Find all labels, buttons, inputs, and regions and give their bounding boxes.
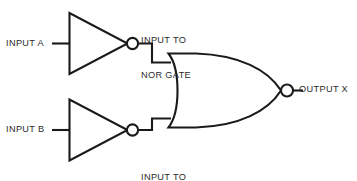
logic-circuit-diagram: INPUT A INPUT B INPUT TO NOR GATE INPUT … <box>0 0 357 181</box>
label-nor-input-top: INPUT TO NOR GATE <box>141 12 191 104</box>
inverter-top-triangle <box>70 13 128 74</box>
label-input-a: INPUT A <box>6 38 44 50</box>
label-nor-input-top-line1: INPUT TO <box>141 35 191 47</box>
label-nor-input-bottom-line1: INPUT TO <box>141 172 191 181</box>
nor-gate-output-bubble-icon <box>281 85 293 97</box>
inverter-bottom-bubble-icon <box>127 124 138 135</box>
label-nor-input-bottom: INPUT TO NOR GATE <box>141 149 191 181</box>
label-input-b: INPUT B <box>6 124 45 136</box>
wire-inverter-bottom-to-nor <box>138 119 171 131</box>
label-output-x: OUTPUT X <box>299 84 348 96</box>
label-nor-input-top-line2: NOR GATE <box>141 70 191 82</box>
inverter-top-bubble-icon <box>127 38 138 49</box>
inverter-bottom-triangle <box>70 100 128 161</box>
